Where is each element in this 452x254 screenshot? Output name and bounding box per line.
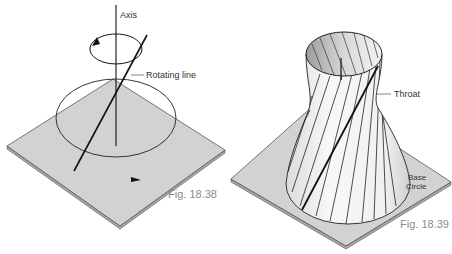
figure-18-38: Axis Rotating line Fig. 18.38	[7, 5, 225, 229]
rotating-line-label: Rotating line	[146, 70, 196, 80]
figure-caption: Fig. 18.39	[400, 218, 449, 230]
axis-label: Axis	[120, 10, 138, 20]
throat-label: Throat	[394, 89, 421, 99]
base-circle-label-line2: Circle	[406, 182, 427, 191]
hyperboloid-diagram: Axis Rotating line Fig. 18.38	[0, 0, 452, 254]
figure-caption: Fig. 18.38	[168, 188, 217, 200]
figure-18-39: Throat Base Circle Fig. 18.39	[231, 32, 451, 249]
base-circle-label-line1: Base	[408, 173, 427, 182]
